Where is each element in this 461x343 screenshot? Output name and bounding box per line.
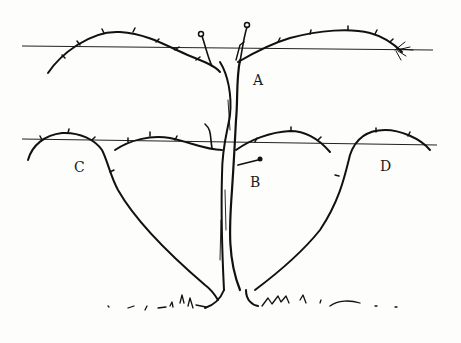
cordon-upper-right bbox=[238, 26, 413, 62]
upper-wire bbox=[22, 46, 433, 50]
ground bbox=[108, 295, 397, 310]
lower-wire bbox=[22, 139, 437, 145]
cordon-lower-left bbox=[28, 129, 222, 300]
label-b: B bbox=[250, 175, 260, 189]
label-a: A bbox=[253, 73, 263, 87]
cordon-lower-right bbox=[236, 127, 430, 290]
label-d: D bbox=[380, 159, 391, 173]
cordon-upper-left bbox=[48, 28, 220, 73]
label-c: C bbox=[74, 160, 85, 174]
vine-illustration: A B C D bbox=[0, 0, 461, 343]
vine-drawing bbox=[0, 0, 461, 343]
